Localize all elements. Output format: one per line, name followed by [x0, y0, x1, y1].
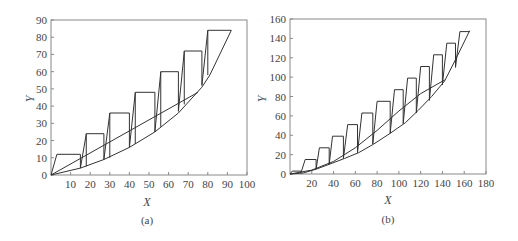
x-tick-label: 90 — [222, 178, 234, 190]
y-tick-label: 120 — [270, 52, 287, 64]
chart-b-x-axis-title: X — [383, 193, 392, 207]
figure: 1020304050607080901000102030405060708090… — [0, 0, 518, 241]
x-tick-label: 30 — [104, 178, 116, 190]
equilibrium-curve — [51, 30, 231, 175]
x-tick-label: 60 — [163, 178, 175, 190]
x-tick-label: 50 — [144, 178, 156, 190]
chart-b-caption: (b) — [382, 213, 395, 226]
y-tick-label: 70 — [36, 48, 48, 60]
y-tick-label: 60 — [36, 66, 48, 78]
x-tick-label: 60 — [350, 177, 362, 189]
chart-a-plot-frame — [51, 20, 247, 175]
chart-b-y-axis-title: Y — [255, 94, 269, 102]
y-tick-label: 50 — [36, 83, 48, 95]
x-tick-label: 70 — [183, 178, 195, 190]
chart-a-caption: (a) — [141, 214, 154, 227]
chart-b-lines — [290, 31, 470, 174]
y-tick-label: 60 — [275, 110, 287, 122]
x-tick-label: 10 — [65, 178, 77, 190]
chart-a-lines — [51, 30, 231, 175]
y-tick-label: 40 — [36, 100, 48, 112]
y-tick-label: 80 — [36, 31, 48, 43]
y-tick-label: 140 — [270, 32, 287, 44]
operating-line — [51, 92, 198, 175]
x-tick-label: 20 — [85, 178, 97, 190]
x-tick-label: 180 — [478, 177, 495, 189]
x-tick-label: 80 — [202, 178, 214, 190]
y-tick-label: 100 — [270, 71, 287, 83]
x-tick-label: 100 — [391, 177, 408, 189]
y-tick-label: 40 — [275, 129, 287, 141]
y-tick-label: 80 — [275, 91, 287, 103]
chart-a-y-axis-title: Y — [23, 94, 37, 102]
y-tick-label: 10 — [36, 152, 48, 164]
equilibrium-curve — [290, 31, 470, 174]
x-tick-label: 40 — [328, 177, 340, 189]
y-tick-label: 20 — [36, 135, 48, 147]
chart-a-ticks: 1020304050607080901000102030405060708090 — [36, 14, 256, 190]
y-tick-label: 90 — [36, 14, 48, 26]
y-tick-label: 160 — [270, 13, 287, 25]
x-tick-label: 40 — [124, 178, 136, 190]
x-tick-label: 80 — [372, 177, 384, 189]
x-tick-label: 20 — [306, 177, 318, 189]
stage-steps — [51, 30, 231, 175]
chart-a-x-axis-title: X — [142, 195, 151, 209]
x-tick-label: 160 — [456, 177, 473, 189]
y-tick-label: 30 — [36, 117, 48, 129]
x-tick-label: 120 — [412, 177, 429, 189]
stage-steps — [290, 32, 470, 174]
y-tick-label: 20 — [275, 149, 287, 161]
x-tick-label: 100 — [239, 178, 256, 190]
x-tick-label: 140 — [434, 177, 451, 189]
chart-b: 2040608010012014016018002040608010012014… — [255, 13, 495, 226]
y-tick-label: 0 — [281, 168, 287, 180]
chart-a: 1020304050607080901000102030405060708090… — [23, 14, 256, 227]
y-tick-label: 0 — [42, 169, 48, 181]
